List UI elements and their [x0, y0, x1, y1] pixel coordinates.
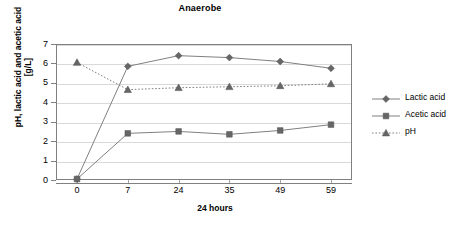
- data-point-marker: [175, 52, 182, 59]
- legend-swatch: [371, 108, 401, 120]
- data-point-marker: [73, 59, 80, 65]
- legend-item-ph[interactable]: pH: [371, 122, 471, 139]
- data-point-marker: [124, 86, 131, 92]
- data-point-marker: [277, 58, 284, 65]
- data-point-marker: [277, 128, 283, 134]
- legend-label: pH: [401, 126, 416, 136]
- data-point-marker: [226, 54, 233, 61]
- chart-legend: Lactic acidAcetic acidpH: [371, 88, 471, 139]
- x-axis-title: 24 hours: [77, 203, 353, 213]
- legend-item-lactic-acid[interactable]: Lactic acid: [371, 88, 471, 105]
- data-point-marker: [125, 131, 131, 137]
- series-line: [77, 56, 331, 179]
- series-line: [77, 62, 331, 89]
- legend-swatch: [371, 125, 401, 137]
- data-point-marker: [176, 129, 182, 135]
- data-point-marker: [124, 63, 131, 70]
- series-acetic-acid: [74, 122, 334, 182]
- series-lactic-acid: [74, 52, 335, 182]
- data-point-marker: [227, 132, 233, 138]
- data-point-marker: [328, 65, 335, 72]
- series-line: [77, 125, 331, 179]
- legend-label: Lactic acid: [401, 92, 445, 102]
- legend-swatch: [371, 91, 401, 103]
- data-point-marker: [328, 122, 334, 128]
- data-point-marker: [74, 176, 80, 182]
- chart-figure: Anaerobe pH, lactic acid and acetic acid…: [0, 0, 474, 225]
- legend-label: Acetic acid: [401, 109, 446, 119]
- legend-item-acetic-acid[interactable]: Acetic acid: [371, 105, 471, 122]
